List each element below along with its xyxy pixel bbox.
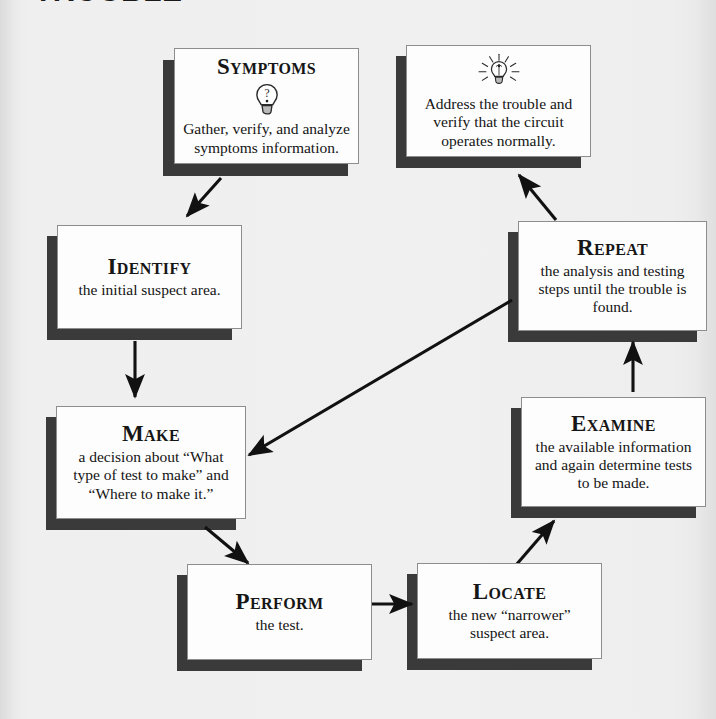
perform-body: the test. [255, 616, 303, 634]
address-body: Address the trouble and verify that the … [415, 95, 582, 150]
identify-title: Identify [107, 255, 191, 279]
arrow-symptoms-to-identify [187, 178, 221, 216]
unlit-lightbulb-question-icon: ? [252, 82, 282, 117]
symptoms-title: Symptoms [217, 55, 316, 79]
arrow-make-to-perform [205, 527, 248, 563]
examine-body: the available information and again dete… [530, 438, 697, 493]
make-title: Make [122, 422, 180, 446]
lit-lightbulb-icon [462, 53, 536, 92]
node-address[interactable]: Address the trouble and verify that the … [406, 45, 591, 157]
arrow-repeat-to-address [519, 175, 556, 220]
cut-off-page-heading: TROUBLE [34, 0, 183, 8]
svg-text:?: ? [264, 88, 269, 100]
node-make[interactable]: Make a decision about “What type of test… [56, 406, 246, 519]
repeat-body: the analysis and testing steps until the… [527, 262, 698, 317]
node-repeat[interactable]: Repeat the analysis and testing steps un… [518, 221, 707, 331]
repeat-title: Repeat [577, 236, 648, 260]
locate-title: Locate [473, 580, 546, 604]
make-body: a decision about “What type of test to m… [65, 448, 237, 503]
node-identify[interactable]: Identify the initial suspect area. [57, 225, 242, 329]
node-examine[interactable]: Examine the available information and ag… [521, 397, 706, 507]
perform-title: Perform [236, 590, 324, 614]
locate-body: the new “narrower” suspect area. [426, 606, 593, 643]
examine-title: Examine [571, 412, 656, 436]
node-symptoms[interactable]: Symptoms ? Gather, verify, and analyze s… [174, 48, 359, 164]
arrow-repeat-to-make [249, 300, 512, 455]
node-locate[interactable]: Locate the new “narrower” suspect area. [417, 563, 602, 659]
scanned-page-background: TROUBLE Symptoms ? [0, 0, 716, 719]
symptoms-body: Gather, verify, and analyze symptoms inf… [183, 120, 350, 157]
node-perform[interactable]: Perform the test. [187, 564, 372, 660]
identify-body: the initial suspect area. [78, 281, 220, 299]
